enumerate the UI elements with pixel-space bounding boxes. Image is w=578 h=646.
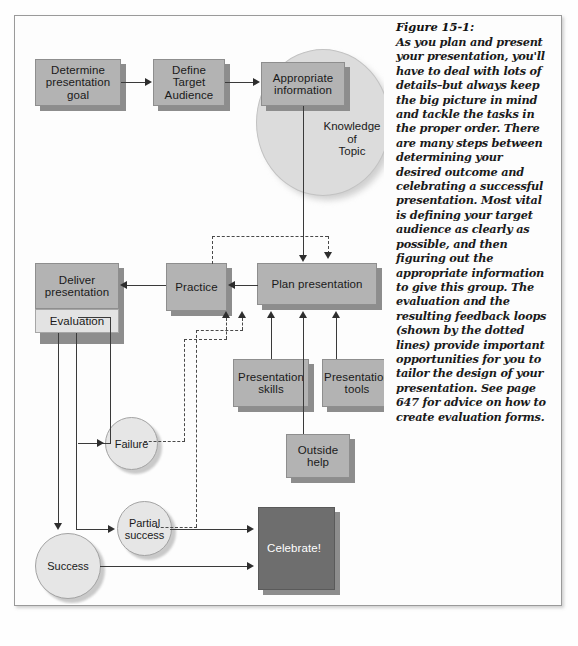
edge-failure-feedback-from-circle (144, 441, 185, 442)
edge-failure-feedback-elbow (184, 339, 227, 340)
define-audience-line-3: Audience (165, 89, 214, 102)
failure-label: Failure (115, 438, 149, 450)
edge-outside-help-to-plan (303, 314, 304, 434)
edge-evaluation-to-partial-riser (76, 333, 77, 530)
edge-partial-feedback-riser-top (242, 318, 243, 330)
node-presentation-tools[interactable]: Presentation tools (322, 359, 384, 407)
edge-evaluation-to-failure-arrowhead (97, 439, 104, 447)
node-define-target-audience[interactable]: Define Target Audience (153, 59, 225, 106)
edge-practice-feedback-top (212, 236, 328, 237)
celebrate-label: Celebrate! (267, 542, 321, 555)
skills-line-2: skills (258, 383, 284, 396)
node-outside-help[interactable]: Outside help (286, 434, 350, 478)
knowledge-line-1: Knowledge (324, 120, 381, 132)
edge-practice-to-deliver (127, 285, 166, 286)
figure-caption-body: As you plan and present your presentatio… (396, 35, 548, 424)
node-success[interactable]: Success (35, 533, 101, 599)
node-appropriate-information[interactable]: Appropriate information (261, 62, 345, 106)
edge-skills-to-plan-arrowhead (267, 311, 275, 318)
edge-failure-feedback-riser (184, 339, 185, 441)
node-failure[interactable]: Failure (105, 417, 158, 470)
define-audience-line-1: Define (172, 64, 206, 77)
edge-evaluation-to-success-arrowhead (54, 523, 62, 530)
edge-evaluation-to-failure (78, 443, 111, 444)
edge-evaluation-to-failure-top (78, 317, 111, 318)
determine-goal-line-2: presentation (46, 76, 111, 89)
edge-partial-feedback-riser (196, 330, 197, 527)
flowchart-plate: Knowledge of Topic Determine presentatio… (16, 17, 384, 604)
edge-evaluation-to-success (58, 333, 59, 525)
edge-plan-to-practice-arrowhead (228, 281, 235, 289)
determine-goal-line-3: goal (67, 89, 89, 102)
edge-tools-to-plan-arrowhead (332, 311, 340, 318)
practice-label: Practice (175, 281, 217, 294)
deliver-line-1: Deliver (59, 274, 96, 287)
figure-page: Knowledge of Topic Determine presentatio… (0, 0, 578, 646)
knowledge-line-2: of (347, 133, 357, 145)
edge-audience-to-info-arrowhead (253, 78, 260, 86)
edge-practice-feedback-arrowhead (324, 252, 332, 259)
plan-presentation-label: Plan presentation (271, 278, 362, 291)
partial-success-line-2: success (125, 529, 165, 541)
edge-partial-feedback-elbow (196, 330, 243, 331)
edge-partial-to-celebrate-arrowhead (247, 525, 254, 533)
determine-goal-line-1: Determine (51, 64, 105, 77)
edge-audience-to-info (225, 82, 254, 83)
knowledge-of-topic-label: Knowledge of Topic (316, 120, 384, 158)
outside-help-line-1: Outside (298, 444, 338, 457)
edge-success-to-celebrate-arrowhead (247, 562, 254, 570)
edge-partial-to-celebrate (170, 529, 248, 530)
tools-line-1: Presentation (324, 371, 384, 384)
edge-partial-feedback-from-circle (156, 527, 197, 528)
edge-goal-to-audience-arrowhead (145, 78, 152, 86)
node-practice[interactable]: Practice (166, 263, 227, 311)
edge-evaluation-to-partial-arrowhead (108, 525, 115, 533)
edge-plan-to-practice (235, 285, 258, 286)
knowledge-line-3: Topic (339, 145, 366, 157)
edge-goal-to-audience (121, 82, 146, 83)
node-celebrate[interactable]: Celebrate! (258, 507, 335, 590)
edge-tools-to-plan (336, 314, 337, 359)
success-label: Success (47, 560, 89, 572)
deliver-line-2: presentation (45, 286, 110, 299)
edge-practice-to-deliver-arrowhead (120, 281, 127, 289)
figure-caption-title: Figure 15-1: (396, 20, 548, 34)
edge-success-to-celebrate (100, 566, 248, 567)
node-plan-presentation[interactable]: Plan presentation (257, 263, 377, 305)
edge-skills-to-plan (271, 314, 272, 359)
tools-line-2: tools (345, 383, 370, 396)
edge-info-to-plan-arrowhead (299, 255, 307, 262)
node-partial-success[interactable]: Partial success (117, 501, 172, 556)
node-presentation-skills[interactable]: Presentation skills (233, 359, 309, 407)
edge-failure-feedback-riser-top (226, 318, 227, 339)
node-determine-presentation-goal[interactable]: Determine presentation goal (35, 59, 121, 106)
edge-evaluation-to-partial (76, 529, 110, 530)
skills-line-1: Presentation (238, 371, 304, 384)
edge-evaluation-to-failure-riser (110, 317, 111, 443)
edge-partial-feedback-arrowhead (238, 311, 246, 318)
define-audience-line-2: Target (173, 76, 206, 89)
outside-help-line-2: help (307, 456, 329, 469)
edge-outside-help-to-plan-arrowhead (299, 311, 307, 318)
node-evaluation[interactable]: Evaluation (35, 309, 119, 333)
edge-practice-feedback-riser (212, 236, 213, 264)
appropriate-info-line-1: Appropriate (273, 72, 334, 85)
node-deliver-presentation[interactable]: Deliver presentation (35, 263, 119, 309)
appropriate-info-line-2: information (274, 84, 332, 97)
figure-caption: Figure 15-1: As you plan and present you… (396, 20, 548, 424)
edge-failure-feedback-arrowhead (222, 311, 230, 318)
